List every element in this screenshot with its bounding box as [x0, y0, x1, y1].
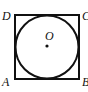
- label-c: C: [82, 9, 88, 23]
- geometry-diagram: D C A B O: [0, 0, 88, 92]
- center-point-o: [45, 44, 48, 47]
- label-o: O: [45, 29, 54, 43]
- label-b: B: [82, 75, 88, 89]
- label-d: D: [1, 9, 11, 23]
- label-a: A: [1, 75, 10, 89]
